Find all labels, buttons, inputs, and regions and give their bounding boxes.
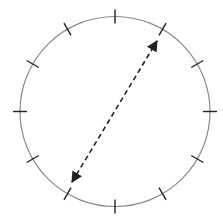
tick-mark: [159, 188, 166, 200]
tick-mark: [159, 23, 166, 35]
tick-mark: [27, 61, 39, 68]
tick-mark: [64, 23, 71, 35]
circle-outline: [20, 17, 210, 207]
tick-mark: [191, 156, 203, 163]
tick-mark: [191, 61, 203, 68]
diagram-canvas: [0, 0, 223, 222]
tick-mark: [27, 156, 39, 163]
circle-diagram: [0, 0, 223, 222]
dashed-double-arrow: [72, 41, 157, 182]
tick-mark: [64, 188, 71, 200]
tick-marks: [13, 10, 217, 214]
